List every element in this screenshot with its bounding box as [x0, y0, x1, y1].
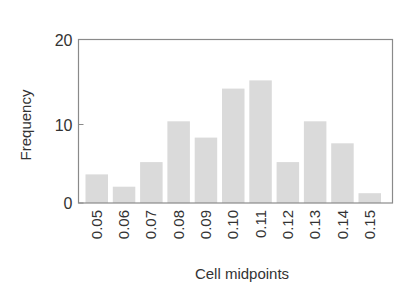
bar-0.14	[331, 143, 354, 203]
x-tick-label: 0.08	[170, 210, 187, 239]
x-tick-label: 0.15	[361, 210, 378, 239]
bars-group	[86, 80, 382, 203]
x-tick-label: 0.11	[252, 210, 269, 238]
y-axis-title: Frequency	[17, 89, 34, 160]
bar-0.07	[140, 162, 163, 203]
x-tick-label: 0.07	[142, 210, 159, 239]
bar-0.12	[277, 162, 300, 203]
bar-0.05	[86, 174, 109, 203]
y-tick-label: 20	[55, 32, 73, 49]
x-axis-title: Cell midpoints	[195, 265, 289, 282]
x-axis-ticks: 0.050.060.070.080.090.100.110.120.130.14…	[88, 210, 378, 239]
x-tick-label: 0.09	[197, 210, 214, 239]
x-tick-label: 0.10	[224, 210, 241, 239]
x-tick-label: 0.06	[115, 210, 132, 239]
bar-0.15	[359, 193, 382, 203]
y-tick-label: 0	[64, 195, 73, 212]
x-tick-label: 0.13	[306, 210, 323, 239]
y-tick-label: 10	[55, 117, 73, 134]
bar-0.13	[304, 121, 327, 203]
x-tick-label: 0.05	[88, 210, 105, 239]
x-tick-label: 0.14	[334, 210, 351, 239]
x-tick-label: 0.12	[279, 210, 296, 239]
bar-0.11	[249, 80, 271, 203]
y-axis-ticks: 01020	[55, 32, 84, 213]
bar-0.08	[167, 121, 190, 203]
histogram-chart: 01020 0.050.060.070.080.090.100.110.120.…	[0, 0, 411, 295]
bar-0.09	[195, 138, 218, 203]
bar-0.06	[113, 187, 136, 203]
bar-0.10	[222, 89, 245, 203]
